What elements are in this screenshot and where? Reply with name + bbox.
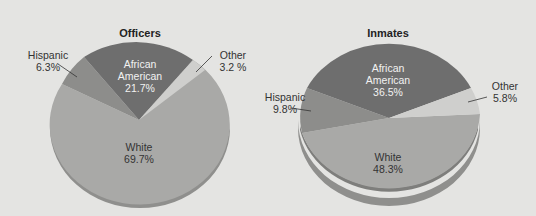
officers-title: Officers [100,27,180,39]
inmates-white-label: White 48.3% [358,151,418,175]
inmates-hispanic-label: Hispanic 9.8% [260,91,310,115]
inmates-pie-chart: Inmates African American 36.5% Hispanic … [268,0,536,216]
officers-pie-chart: Officers African American 21.7% Hispanic… [0,0,268,216]
officers-aa-label: African American 21.7% [105,58,175,94]
inmates-aa-label: African American 36.5% [353,62,423,98]
inmates-other-label: Other 5.8% [480,80,530,104]
officers-white-label: White 69.7% [109,141,169,165]
officers-other-label: Other 3.2 % [208,49,258,73]
officers-hispanic-label: Hispanic 6.3% [18,49,78,73]
inmates-title: Inmates [348,27,428,39]
